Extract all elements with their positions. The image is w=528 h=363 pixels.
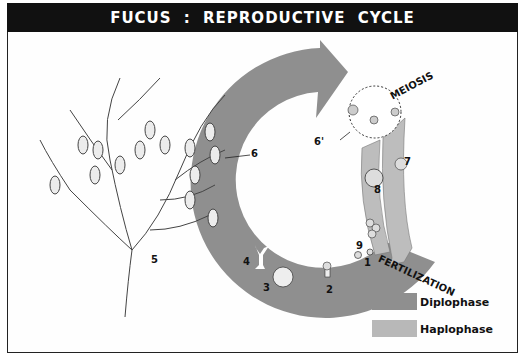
stage-1-label: 1 (364, 257, 371, 268)
stage-4-label: 4 (243, 256, 250, 267)
stage-9-label: 9 (356, 240, 363, 251)
pointer-line (340, 132, 350, 140)
legend-swatch-haplophase (372, 320, 417, 337)
legend-swatch-diplophase (372, 293, 417, 310)
stage-6-label: 6 (251, 148, 258, 159)
haplophase-bands (361, 118, 412, 265)
legend-label-haplophase: Haplophase (420, 323, 493, 336)
stage-8-label: 8 (374, 184, 381, 195)
stage-6-prime-label: 6' (314, 136, 324, 147)
stage-3-label: 3 (263, 282, 270, 293)
stage-2-label: 2 (326, 284, 333, 295)
stage-7-label: 7 (404, 156, 411, 167)
legend-label-diplophase: Diplophase (420, 296, 489, 309)
stage-5-label: 5 (151, 254, 158, 265)
